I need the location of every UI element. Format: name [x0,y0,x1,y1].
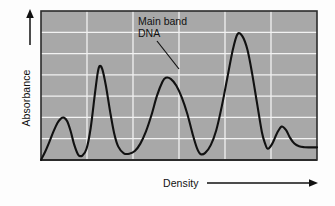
figure-container: Absorbance Density Main band DNA [0,0,335,206]
absorbance-density-chart: Absorbance Density Main band DNA [0,0,335,206]
annotation-main-band-line2: DNA [138,27,160,39]
annotation-main-band-line1: Main band [138,15,187,27]
x-axis-label: Density [163,177,199,189]
y-axis-label: Absorbance [20,69,32,126]
